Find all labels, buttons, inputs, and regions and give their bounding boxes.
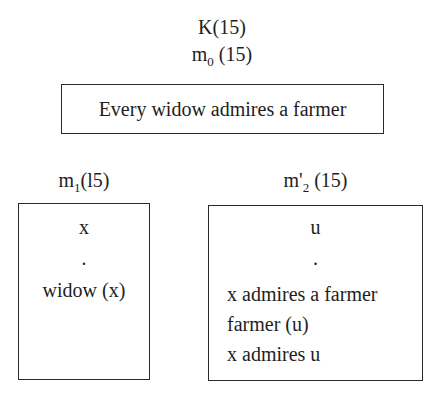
right-drs-label-suffix: (15) [309,169,347,191]
right-drs-referent: u [209,215,422,239]
left-drs-label-sub: 1 [74,180,81,195]
title-text: K(15) [198,16,246,38]
right-drs-box: u . x admires a farmer farmer (u) x admi… [208,205,423,381]
right-drs-condition: x admires a farmer [227,282,377,306]
main-drs-label-base: m [192,43,208,65]
left-drs-separator: . [19,246,149,270]
main-drs-box: Every widow admires a farmer [61,84,384,134]
right-drs-condition: x admires u [227,342,320,366]
diagram-title: K(15) [0,15,444,39]
left-drs-box: x . widow (x) [18,203,150,380]
main-drs-label-suffix: (15) [214,43,252,65]
left-drs-label: m1(l5) [18,168,150,192]
left-drs-label-suffix: (l5) [81,169,110,191]
main-drs-label-sub: 0 [207,54,214,69]
left-drs-referent: x [19,215,149,239]
main-drs-label: m0 (15) [0,42,444,66]
left-drs-condition: widow (x) [19,278,149,302]
right-drs-separator: . [209,246,422,270]
main-drs-sentence: Every widow admires a farmer [62,97,383,121]
right-drs-condition: farmer (u) [227,312,309,336]
left-drs-label-base: m [59,169,75,191]
right-drs-label: m'2 (15) [208,168,423,192]
right-drs-label-sub: 2 [303,180,310,195]
right-drs-label-base: m' [284,169,303,191]
